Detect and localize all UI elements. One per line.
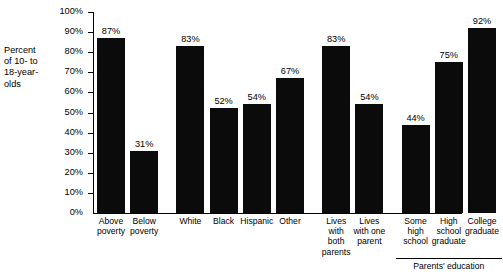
- bar-value-label: 83%: [316, 34, 356, 45]
- y-tick-mark: [88, 113, 93, 114]
- bar-value-label: 54%: [349, 92, 389, 103]
- x-axis-label: College graduate: [461, 216, 503, 236]
- y-tick-label: 50%: [65, 107, 83, 118]
- y-tick-mark: [88, 173, 93, 174]
- bar: [276, 78, 304, 213]
- y-tick-mark: [88, 153, 93, 154]
- bar-value-label: 92%: [462, 16, 502, 27]
- y-tick-label: 0%: [70, 207, 83, 218]
- x-axis-label: Below poverty: [123, 216, 165, 236]
- y-axis-line: [93, 12, 94, 214]
- bar: [97, 38, 125, 213]
- y-tick-label: 80%: [65, 46, 83, 57]
- x-axis-line: [93, 213, 462, 214]
- x-axis-label: Lives with one parent: [348, 216, 390, 247]
- bar: [130, 151, 158, 213]
- y-tick-label: 10%: [65, 187, 83, 198]
- y-tick-mark: [88, 72, 93, 73]
- x-axis-label: Other: [269, 216, 311, 226]
- bar-value-label: 83%: [170, 34, 210, 45]
- bar-value-label: 75%: [429, 50, 469, 61]
- bar: [402, 125, 430, 213]
- bar: [210, 108, 238, 213]
- group-label: Parents' education: [396, 261, 502, 271]
- y-tick-mark: [88, 52, 93, 53]
- y-tick-label: 40%: [65, 127, 83, 138]
- y-tick-label: 20%: [65, 167, 83, 178]
- bar-value-label: 67%: [270, 66, 310, 77]
- y-tick-label: 90%: [65, 26, 83, 37]
- bar: [176, 46, 204, 213]
- y-tick-mark: [88, 133, 93, 134]
- y-tick-label: 70%: [65, 66, 83, 77]
- bar: [468, 28, 496, 213]
- bar-value-label: 31%: [124, 139, 164, 150]
- group-bracket-line: [396, 258, 502, 259]
- y-tick-label: 100%: [60, 6, 84, 17]
- bar-value-label: 44%: [396, 113, 436, 124]
- y-axis-title: Percent of 10- to 18-year- olds: [4, 45, 62, 90]
- bar-value-label: 87%: [91, 26, 131, 37]
- bar: [243, 104, 271, 213]
- y-tick-mark: [88, 92, 93, 93]
- y-tick-label: 60%: [65, 86, 83, 97]
- bar: [322, 46, 350, 213]
- bar: [355, 104, 383, 213]
- y-tick-mark: [88, 193, 93, 194]
- bar-value-label: 54%: [237, 92, 277, 103]
- bar: [435, 62, 463, 213]
- y-tick-mark: [88, 12, 93, 13]
- y-tick-label: 30%: [65, 147, 83, 158]
